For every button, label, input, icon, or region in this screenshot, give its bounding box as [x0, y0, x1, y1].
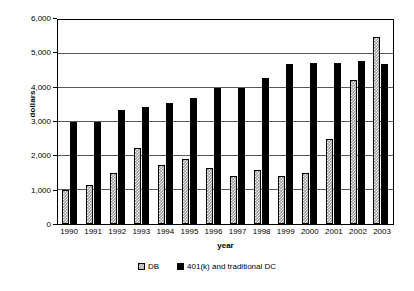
- legend-swatch-db-icon: [138, 263, 145, 270]
- bar-db: [158, 165, 165, 225]
- y-axis-tick-label: 1,000: [1, 187, 51, 195]
- bar-db: [326, 139, 333, 224]
- y-axis-tick-label: 4,000: [1, 84, 51, 92]
- legend-item: 401(k) and traditional DC: [177, 262, 276, 271]
- bar-db: [254, 170, 261, 224]
- bar-group: [130, 20, 154, 224]
- bar-db: [278, 176, 285, 224]
- x-axis-tick-labels: 1990199119921993199419951996199719981999…: [57, 227, 394, 237]
- bar-dc: [118, 110, 125, 224]
- x-axis-title: year: [57, 241, 394, 250]
- bar-group: [202, 20, 226, 224]
- x-axis-tick-label: 2001: [322, 227, 346, 237]
- legend-label: DB: [148, 262, 159, 271]
- bar-db: [373, 37, 380, 224]
- bar-dc: [70, 122, 77, 224]
- y-axis-tick-label: 2,000: [1, 152, 51, 160]
- bar-db: [62, 190, 69, 224]
- bar-db: [230, 176, 237, 224]
- bar-dc: [142, 107, 149, 224]
- bar-db: [86, 185, 93, 224]
- bar-db: [182, 159, 189, 224]
- bar-dc: [262, 78, 269, 224]
- x-axis-tick-label: 1997: [226, 227, 250, 237]
- x-axis-tick-label: 1996: [201, 227, 225, 237]
- bar-dc: [166, 103, 173, 224]
- x-axis-tick-label: 1991: [81, 227, 105, 237]
- bar-group: [58, 20, 82, 224]
- bar-group: [273, 20, 297, 224]
- bar-db: [302, 173, 309, 224]
- x-axis-tick-label: 1990: [57, 227, 81, 237]
- y-axis-tick-label: 5,000: [1, 49, 51, 57]
- bar-db: [134, 148, 141, 225]
- x-axis-tick-label: 2002: [346, 227, 370, 237]
- bar-db: [350, 80, 357, 225]
- bar-group: [369, 20, 393, 224]
- bar-group: [321, 20, 345, 224]
- y-axis-tick-label: 3,000: [1, 118, 51, 126]
- bar-group: [178, 20, 202, 224]
- bar-group: [297, 20, 321, 224]
- x-axis-tick-label: 1994: [153, 227, 177, 237]
- x-axis-tick-label: 1992: [105, 227, 129, 237]
- legend-item: DB: [138, 262, 159, 271]
- x-axis-tick-label: 2003: [370, 227, 394, 237]
- bar-chart-figure: dollars 01,0002,0003,0004,0005,0006,000 …: [0, 0, 414, 291]
- bar-dc: [358, 61, 365, 224]
- x-axis-tick-label: 1995: [177, 227, 201, 237]
- bar-group: [249, 20, 273, 224]
- bar-group: [225, 20, 249, 224]
- bar-dc: [310, 63, 317, 224]
- bar-db: [110, 173, 117, 224]
- bar-dc: [286, 64, 293, 224]
- bar-dc: [381, 64, 388, 224]
- bar-group: [345, 20, 369, 224]
- x-axis-tick-label: 2000: [298, 227, 322, 237]
- bar-dc: [334, 63, 341, 224]
- bar-group: [106, 20, 130, 224]
- bar-db: [206, 168, 213, 224]
- bar-dc: [190, 98, 197, 224]
- bar-dc: [214, 88, 221, 224]
- y-axis-ticks: 01,0002,0003,0004,0005,0006,000: [0, 19, 57, 225]
- bar-series-container: [58, 20, 393, 224]
- bar-group: [82, 20, 106, 224]
- bar-group: [154, 20, 178, 224]
- bar-dc: [94, 122, 101, 224]
- x-axis-tick-label: 1993: [129, 227, 153, 237]
- x-axis-tick-label: 1998: [250, 227, 274, 237]
- chart-legend: DB401(k) and traditional DC: [0, 262, 414, 271]
- legend-swatch-dc-icon: [177, 263, 184, 270]
- y-axis-tick-label: 0: [1, 221, 51, 229]
- legend-label: 401(k) and traditional DC: [187, 262, 276, 271]
- y-axis-tick-label: 6,000: [1, 15, 51, 23]
- bar-dc: [238, 88, 245, 224]
- x-axis-tick-label: 1999: [274, 227, 298, 237]
- plot-area: [57, 19, 394, 225]
